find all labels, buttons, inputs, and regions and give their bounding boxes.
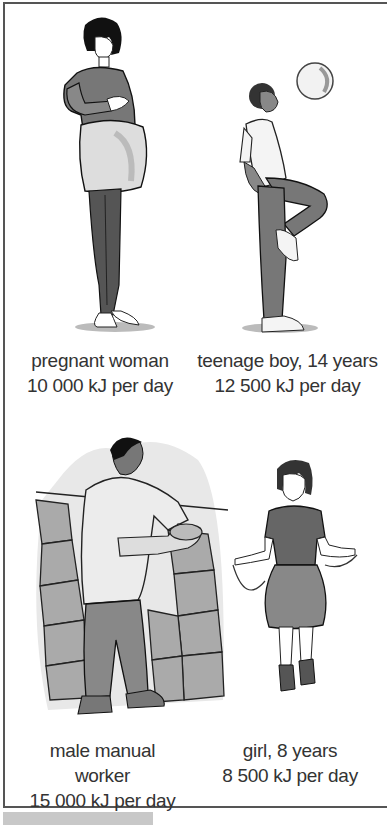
- teenage-boy-caption: teenage boy, 14 years 12 500 kJ per day: [190, 348, 385, 398]
- girl-label: girl, 8 years: [200, 738, 380, 763]
- bottom-gray-strip: [3, 812, 153, 825]
- girl-illustration: [225, 455, 365, 705]
- male-manual-worker-energy: 15 000 kJ per day: [10, 788, 195, 813]
- girl-caption: girl, 8 years 8 500 kJ per day: [200, 738, 380, 788]
- male-manual-worker-label-line1: male manual: [10, 738, 195, 763]
- teenage-boy-label: teenage boy, 14 years: [190, 348, 385, 373]
- male-manual-worker-label-line2: worker: [10, 763, 195, 788]
- male-manual-worker-illustration: [28, 420, 228, 720]
- male-manual-worker-caption: male manual worker 15 000 kJ per day: [10, 738, 195, 813]
- pregnant-woman-energy: 10 000 kJ per day: [10, 373, 190, 398]
- pregnant-woman-label: pregnant woman: [10, 348, 190, 373]
- pregnant-woman-illustration: [55, 15, 165, 335]
- teenage-boy-illustration: [240, 58, 350, 338]
- teenage-boy-energy: 12 500 kJ per day: [190, 373, 385, 398]
- pregnant-woman-caption: pregnant woman 10 000 kJ per day: [10, 348, 190, 398]
- girl-energy: 8 500 kJ per day: [200, 763, 380, 788]
